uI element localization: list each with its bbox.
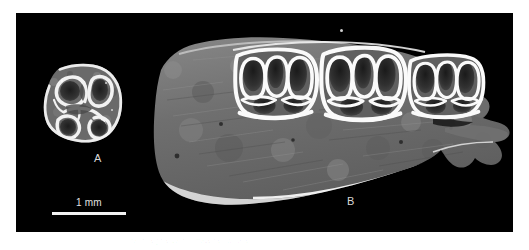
specimen-image-panel: A B 1 mm [16, 13, 513, 232]
figure-root: A B 1 mm faint illegible caption trace b… [0, 0, 529, 250]
caption-trace: faint illegible caption trace below pane… [131, 237, 261, 245]
panel-label-b: B [347, 196, 355, 207]
specimen-b-drawing [133, 30, 513, 220]
scale-bar-line [52, 212, 126, 215]
specimen-b-mandible [133, 30, 513, 220]
dust-speck-artifact [340, 29, 343, 32]
panel-label-a: A [94, 153, 102, 164]
tooth-row [233, 42, 485, 121]
scale-bar-label: 1 mm [52, 198, 126, 208]
scale-bar: 1 mm [52, 198, 126, 215]
specimen-a-drawing [42, 62, 124, 144]
specimen-a-isolated-molar [42, 62, 124, 144]
